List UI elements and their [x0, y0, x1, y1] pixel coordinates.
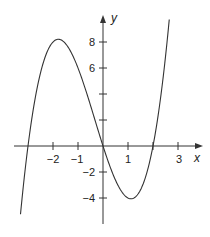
y-axis-arrow-icon	[100, 15, 106, 23]
x-tick-label: 3	[176, 153, 182, 165]
y-tick-label: −4	[82, 192, 95, 204]
y-tick-label: 8	[89, 36, 95, 48]
chart: −2 −1 1 3 8 6 −2 −4 x y	[0, 0, 210, 237]
y-tick-label: −2	[82, 166, 95, 178]
x-axis-arrow-icon	[195, 143, 203, 149]
x-tick-label: 1	[125, 153, 131, 165]
y-tick-label: 6	[89, 62, 95, 74]
y-axis-label: y	[110, 11, 118, 25]
x-tick-label: −1	[71, 153, 84, 165]
x-axis-label: x	[193, 151, 201, 165]
function-curve	[21, 19, 170, 214]
x-tick-label: −2	[47, 153, 60, 165]
